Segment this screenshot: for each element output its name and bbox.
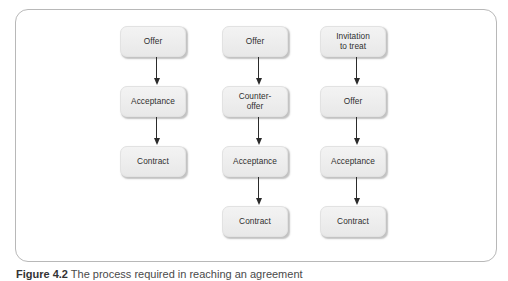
flow-node-invitation-to-treat: Invitation to treat xyxy=(320,26,386,57)
figure-caption-text: The process required in reaching an agre… xyxy=(71,268,303,280)
arrow-shaft xyxy=(356,177,357,200)
flowchart: Offer Acceptance Contract Offer xyxy=(0,0,508,262)
arrow-shaft xyxy=(156,117,157,140)
flow-node-contract: Contract xyxy=(320,206,386,237)
flow-node-acceptance: Acceptance xyxy=(120,86,186,117)
flow-arrow-down-icon xyxy=(152,57,161,86)
flow-node-offer: Offer xyxy=(320,86,386,117)
arrow-head xyxy=(256,78,262,85)
flow-arrow-down-icon xyxy=(152,117,161,146)
flow-node-label: Acceptance xyxy=(129,97,177,107)
flow-node-label: Counter- offer xyxy=(237,92,274,111)
flow-node-label: Contract xyxy=(335,217,371,227)
flow-node-label: Offer xyxy=(342,97,365,107)
flow-node-acceptance: Acceptance xyxy=(222,146,288,177)
flow-column-2: Offer Counter- offer Acceptance xyxy=(221,0,291,262)
flow-node-contract: Contract xyxy=(120,146,186,177)
arrow-head xyxy=(154,138,160,145)
arrow-shaft xyxy=(258,177,259,200)
flow-node-contract: Contract xyxy=(222,206,288,237)
arrow-shaft xyxy=(258,57,259,80)
flow-node-acceptance: Acceptance xyxy=(320,146,386,177)
flow-node-offer: Offer xyxy=(222,26,288,57)
arrow-shaft xyxy=(258,117,259,140)
flow-node-counter-offer: Counter- offer xyxy=(222,86,288,117)
flow-column-3: Invitation to treat Offer Acceptance xyxy=(319,0,389,262)
flow-node-label: Acceptance xyxy=(329,157,377,167)
flow-arrow-down-icon xyxy=(254,57,263,86)
flow-node-label: Offer xyxy=(244,37,267,47)
arrow-head xyxy=(354,78,360,85)
flow-arrow-down-icon xyxy=(352,177,361,206)
arrow-head xyxy=(256,138,262,145)
arrow-head xyxy=(154,78,160,85)
flow-node-label: Invitation to treat xyxy=(334,32,372,51)
flow-arrow-down-icon xyxy=(254,177,263,206)
flow-arrow-down-icon xyxy=(352,117,361,146)
flow-node-label: Contract xyxy=(237,217,273,227)
flow-column-1: Offer Acceptance Contract xyxy=(119,0,189,262)
flow-node-label: Acceptance xyxy=(231,157,279,167)
arrow-head xyxy=(354,198,360,205)
arrow-shaft xyxy=(356,117,357,140)
arrow-shaft xyxy=(156,57,157,80)
figure-caption-number: Figure 4.2 xyxy=(16,268,68,280)
arrow-head xyxy=(256,198,262,205)
flow-arrow-down-icon xyxy=(254,117,263,146)
flow-node-label: Offer xyxy=(142,37,165,47)
flow-node-label: Contract xyxy=(135,157,171,167)
figure-caption: Figure 4.2 The process required in reach… xyxy=(16,268,496,281)
flow-node-offer: Offer xyxy=(120,26,186,57)
arrow-shaft xyxy=(356,57,357,80)
flow-arrow-down-icon xyxy=(352,57,361,86)
arrow-head xyxy=(354,138,360,145)
